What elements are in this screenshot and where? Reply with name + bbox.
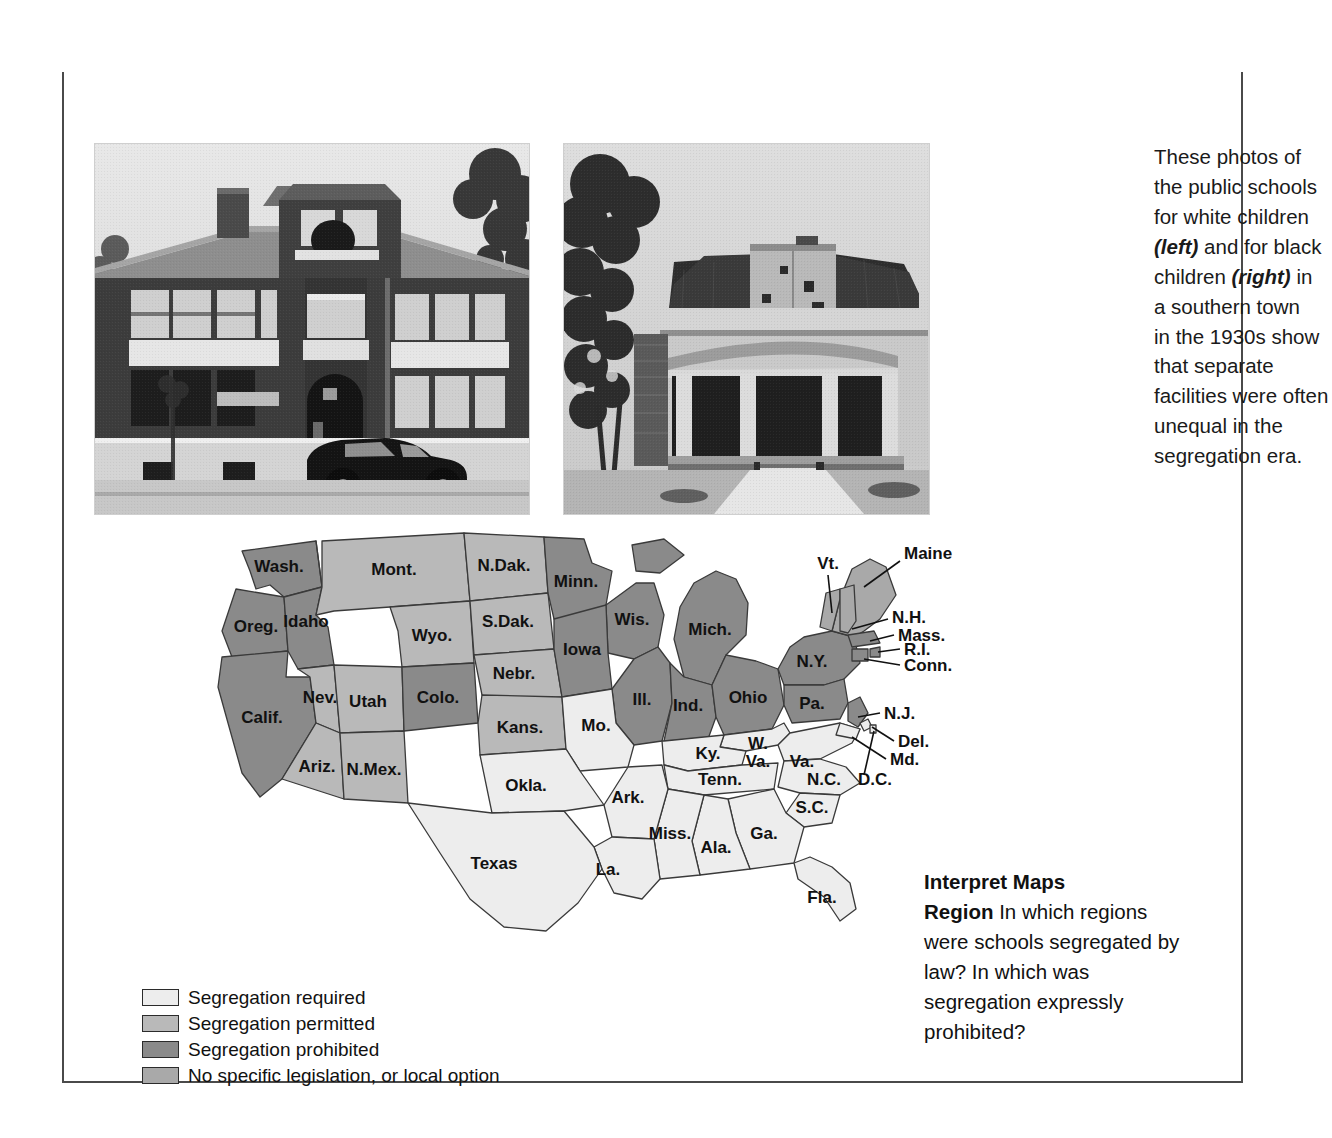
map-label-ga: Ga. — [750, 824, 777, 843]
map-label-wis: Wis. — [615, 610, 650, 629]
caption-line-5-a: children — [1154, 265, 1232, 288]
interpret-q-1: In which regions — [993, 900, 1147, 923]
map-label-ny: N.Y. — [796, 652, 827, 671]
interpret-q-4: segregation expressly — [924, 990, 1123, 1013]
map-label-sc: S.C. — [795, 798, 828, 817]
map-label-del: Del. — [898, 732, 929, 751]
map-label-dc: D.C. — [858, 770, 892, 789]
map-label-conn: Conn. — [904, 656, 952, 675]
map-label-ohio: Ohio — [729, 688, 768, 707]
caption-line-4: (left) and for black — [1154, 232, 1332, 262]
caption-line-2: the public schools — [1154, 172, 1332, 202]
map-label-calif: Calif. — [241, 708, 283, 727]
interpret-term: Region — [924, 900, 993, 923]
map-label-ill: Ill. — [633, 690, 652, 709]
interpret-q-2: were schools segregated — [924, 930, 1152, 953]
map-label-mont: Mont. — [371, 560, 416, 579]
caption-line-11: segregation era. — [1154, 441, 1332, 471]
caption-line-3: for white children — [1154, 202, 1332, 232]
map-label-mich: Mich. — [688, 620, 731, 639]
caption-line-10: unequal in the — [1154, 411, 1332, 441]
map-label-sdak: S.Dak. — [482, 612, 534, 631]
map-label-mo: Mo. — [581, 716, 610, 735]
caption-line-5: children (right) in — [1154, 262, 1332, 292]
caption-left-emphasis: (left) — [1154, 235, 1198, 258]
caption-line-5-b: in — [1291, 265, 1313, 288]
legend-item-no-legislation[interactable]: No specific legislation, or local option — [142, 1065, 572, 1086]
map-label-okla: Okla. — [505, 776, 547, 795]
map-label-tenn: Tenn. — [698, 770, 742, 789]
caption-line-9: facilities were often — [1154, 381, 1332, 411]
interpret-q-5: prohibited? — [924, 1020, 1025, 1043]
map-label-wyo: Wyo. — [412, 626, 452, 645]
legend-swatch-no-legislation — [142, 1067, 179, 1084]
map-label-miss: Miss. — [649, 824, 692, 843]
legend-item-permitted[interactable]: Segregation permitted — [142, 1013, 572, 1034]
interpret-maps-block: Interpret Maps Region In which regions w… — [924, 867, 1194, 1047]
map-label-nebr: Nebr. — [493, 664, 536, 683]
white-school-photo — [95, 144, 529, 514]
map-label-iowa: Iowa — [563, 640, 601, 659]
caption-line-4-rest: and for black — [1198, 235, 1321, 258]
photo-caption: These photos of the public schools for w… — [1154, 142, 1332, 471]
map-label-fla: Fla. — [807, 888, 836, 907]
map-label-nj: N.J. — [884, 704, 915, 723]
map-label-texas: Texas — [471, 854, 518, 873]
map-label-oreg: Oreg. — [234, 617, 278, 636]
map-label-la: La. — [596, 860, 621, 879]
legend-label-required: Segregation required — [188, 988, 365, 1007]
legend-item-required[interactable]: Segregation required — [142, 987, 572, 1008]
map-label-ariz: Ariz. — [299, 757, 336, 776]
map-label-ark: Ark. — [611, 788, 644, 807]
caption-line-6: a southern town — [1154, 292, 1332, 322]
map-label-ndak: N.Dak. — [478, 556, 531, 575]
map-label-nc: N.C. — [807, 770, 841, 789]
map-legend: Segregation required Segregation permitt… — [142, 987, 572, 1091]
content-frame: These photos of the public schools for w… — [62, 72, 1243, 1083]
map-label-idaho: Idaho — [283, 612, 328, 631]
map-label-colo: Colo. — [417, 688, 460, 707]
map-label-md: Md. — [890, 750, 919, 769]
legend-label-permitted: Segregation permitted — [188, 1014, 375, 1033]
interpret-heading: Interpret Maps — [924, 867, 1194, 897]
map-label-nev: Nev. — [303, 688, 338, 707]
map-label-nh: N.H. — [892, 608, 926, 627]
legend-swatch-required — [142, 989, 179, 1006]
caption-right-emphasis: (right) — [1232, 265, 1291, 288]
map-label-vt: Vt. — [817, 554, 839, 573]
photo-row — [95, 144, 1215, 514]
map-label-ind: Ind. — [673, 696, 703, 715]
map-label-pa: Pa. — [799, 694, 825, 713]
map-label-wva-1: W. — [748, 734, 768, 753]
map-label-wash: Wash. — [254, 557, 303, 576]
black-school-photo — [564, 144, 929, 514]
map-label-wva-2: Va. — [746, 752, 771, 771]
map-label-minn: Minn. — [554, 572, 598, 591]
legend-label-no-legislation: No specific legislation, or local option — [188, 1066, 500, 1085]
map-label-utah: Utah — [349, 692, 387, 711]
legend-label-prohibited: Segregation prohibited — [188, 1040, 379, 1059]
map-label-ky: Ky. — [695, 744, 720, 763]
interpret-question: Region In which regions were schools seg… — [924, 897, 1194, 1047]
caption-line-8: that separate — [1154, 351, 1332, 381]
legend-swatch-prohibited — [142, 1041, 179, 1058]
legend-item-prohibited[interactable]: Segregation prohibited — [142, 1039, 572, 1060]
legend-swatch-permitted — [142, 1015, 179, 1032]
map-label-ala: Ala. — [700, 838, 731, 857]
segregation-map[interactable]: Wash. Oreg. Calif. Idaho Mont. Wyo. Nev.… — [164, 527, 954, 1017]
caption-line-7: in the 1930s show — [1154, 322, 1332, 352]
map-label-va: Va. — [790, 752, 815, 771]
map-label-nmex: N.Mex. — [347, 760, 402, 779]
caption-line-1: These photos of — [1154, 142, 1332, 172]
map-label-maine: Maine — [904, 544, 952, 563]
map-label-kans: Kans. — [497, 718, 543, 737]
